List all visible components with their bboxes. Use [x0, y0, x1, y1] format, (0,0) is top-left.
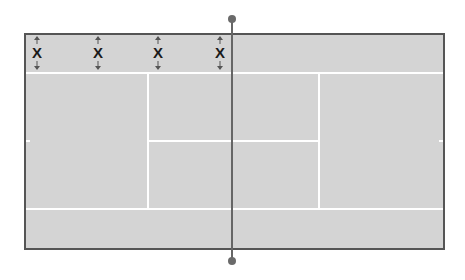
- player-marker-1: X: [29, 36, 45, 70]
- net-line: [231, 19, 233, 261]
- player-marker-4: X: [212, 36, 228, 70]
- doubles-sideline-bottom: [26, 208, 443, 210]
- doubles-sideline-top: [26, 72, 443, 74]
- marker-label: X: [150, 45, 166, 61]
- center-mark-left: [26, 140, 30, 142]
- net-post-top: [228, 15, 236, 23]
- service-line-right: [318, 74, 320, 208]
- player-marker-2: X: [90, 36, 106, 70]
- center-mark-right: [439, 140, 443, 142]
- tennis-court: [24, 33, 445, 250]
- marker-label: X: [212, 45, 228, 61]
- center-service-line: [149, 140, 318, 142]
- marker-label: X: [29, 45, 45, 61]
- marker-label: X: [90, 45, 106, 61]
- player-marker-3: X: [150, 36, 166, 70]
- net-post-bottom: [228, 257, 236, 265]
